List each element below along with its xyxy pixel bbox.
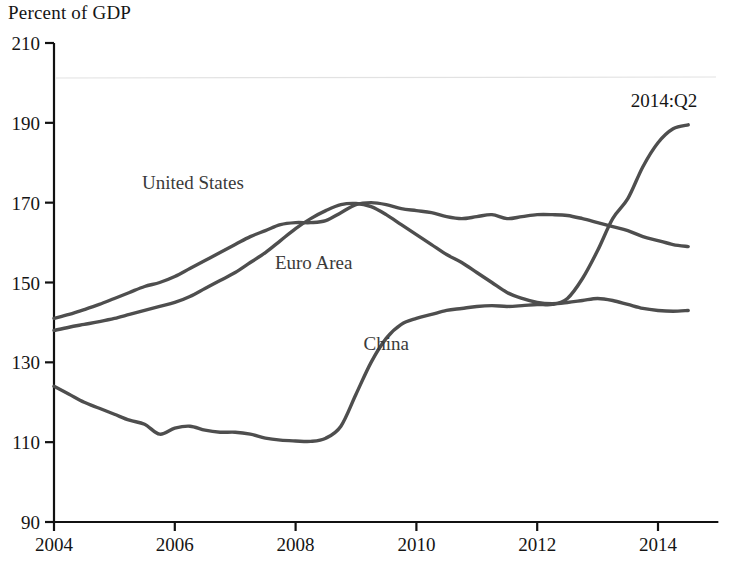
scan-artifact-line — [56, 77, 716, 78]
x-tick-label: 2008 — [277, 534, 315, 555]
chart-plot-area: 90110130150170190210 2004200620082010201… — [0, 0, 732, 565]
series-label-united-states: United States — [142, 172, 244, 193]
series-label-euro-area: Euro Area — [275, 252, 353, 273]
x-tick-label: 2012 — [518, 534, 556, 555]
y-tick-label: 150 — [12, 273, 41, 294]
y-tick-label: 170 — [12, 193, 41, 214]
x-axis-ticks: 200420062008201020122014 — [35, 522, 678, 555]
y-tick-label: 210 — [12, 33, 41, 54]
series-label-group: United StatesEuro AreaChina — [142, 172, 409, 355]
series-label-china: China — [364, 333, 410, 354]
chart-figure: Percent of GDP 90110130150170190210 2004… — [0, 0, 732, 565]
annotation-group: 2014:Q2 — [631, 90, 698, 111]
y-tick-label: 110 — [12, 432, 40, 453]
y-axis-ticks: 90110130150170190210 — [12, 33, 55, 533]
y-tick-label: 190 — [12, 113, 41, 134]
y-tick-label: 130 — [12, 352, 41, 373]
x-tick-label: 2014 — [639, 534, 678, 555]
y-tick-label: 90 — [21, 512, 40, 533]
x-tick-label: 2004 — [35, 534, 74, 555]
chart-annotation: 2014:Q2 — [631, 90, 698, 111]
x-tick-label: 2006 — [156, 534, 194, 555]
x-tick-label: 2010 — [397, 534, 435, 555]
